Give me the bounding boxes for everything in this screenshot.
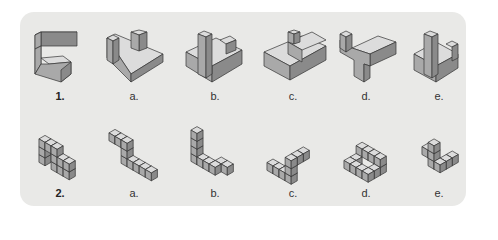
option-1e-label[interactable]: e. bbox=[419, 90, 459, 102]
unit-cube bbox=[434, 158, 446, 173]
question-2-label: 2. bbox=[40, 187, 80, 199]
unit-cube bbox=[63, 157, 75, 172]
option-1c-solid[interactable] bbox=[262, 30, 328, 85]
unit-cube bbox=[428, 139, 440, 154]
option-2d-cubes[interactable] bbox=[340, 133, 400, 183]
option-2b-label[interactable]: b. bbox=[195, 187, 235, 199]
option-2d-label[interactable]: d. bbox=[346, 187, 386, 199]
option-2e-label[interactable]: e. bbox=[419, 187, 459, 199]
question-1-solid bbox=[33, 30, 83, 85]
option-1e-solid[interactable] bbox=[412, 30, 462, 85]
question-1-label: 1. bbox=[40, 90, 80, 102]
unit-cube bbox=[145, 166, 157, 181]
option-2a-label[interactable]: a. bbox=[114, 187, 154, 199]
option-1a-label[interactable]: a. bbox=[114, 90, 154, 102]
unit-cube bbox=[362, 168, 374, 183]
option-2e-cubes[interactable] bbox=[414, 135, 464, 185]
option-1b-label[interactable]: b. bbox=[195, 90, 235, 102]
unit-cube bbox=[221, 161, 233, 176]
option-1d-solid[interactable] bbox=[338, 30, 398, 85]
question-2-cubes bbox=[33, 133, 93, 183]
option-1c-label[interactable]: c. bbox=[273, 90, 313, 102]
unit-cube bbox=[121, 136, 133, 151]
unit-cube bbox=[191, 127, 203, 142]
option-1d-label[interactable]: d. bbox=[346, 90, 386, 102]
option-2b-cubes[interactable] bbox=[189, 128, 249, 183]
option-1b-solid[interactable] bbox=[184, 30, 244, 85]
option-2c-cubes[interactable] bbox=[265, 137, 325, 187]
unit-cube bbox=[285, 154, 297, 169]
option-1a-solid[interactable] bbox=[105, 30, 165, 85]
unit-cube bbox=[209, 161, 221, 176]
option-2a-cubes[interactable] bbox=[105, 133, 165, 183]
option-2c-label[interactable]: c. bbox=[273, 187, 313, 199]
